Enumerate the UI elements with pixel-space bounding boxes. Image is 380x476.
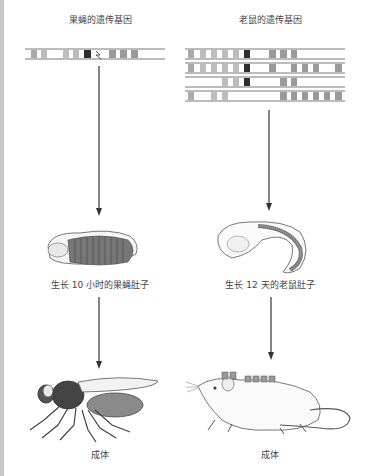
break-icon bbox=[96, 51, 101, 59]
mouse-arrow-1 bbox=[266, 110, 272, 211]
mouse-gene-bars bbox=[185, 49, 345, 101]
adult-fly-illustration bbox=[30, 378, 158, 442]
mouse-embryo-illustration bbox=[218, 222, 306, 273]
fly-arrow-1 bbox=[96, 66, 102, 216]
fly-adult-caption: 成体 bbox=[20, 448, 180, 461]
mouse-arrow-2 bbox=[268, 297, 274, 360]
mouse-embryo-caption: 生长 12 天的老鼠肚子 bbox=[190, 278, 350, 291]
fly-arrow-2 bbox=[96, 297, 102, 369]
fly-gene-bar bbox=[25, 49, 165, 59]
fly-embryo-caption: 生长 10 小时的果蝇肚子 bbox=[20, 278, 180, 291]
fly-embryo-illustration bbox=[48, 231, 137, 265]
diagram-canvas bbox=[0, 0, 380, 476]
mouse-adult-caption: 成体 bbox=[190, 448, 350, 461]
adult-mouse-illustration bbox=[186, 372, 350, 434]
